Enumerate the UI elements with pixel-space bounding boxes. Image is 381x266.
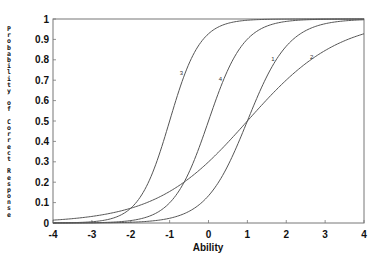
- x-tick-label: -2: [126, 229, 135, 240]
- x-tick-label: 2: [283, 229, 289, 240]
- y-tick-label: 0.8: [35, 54, 49, 65]
- curve-label-2: 2: [310, 54, 314, 60]
- x-tick-label: 3: [322, 229, 328, 240]
- x-tick-label: 4: [361, 229, 367, 240]
- y-tick-label: 0: [43, 218, 49, 229]
- curve-4: [53, 19, 364, 223]
- x-tick-label: -1: [165, 229, 174, 240]
- curve-label-3: 3: [180, 70, 184, 76]
- y-tick-label: 0.5: [35, 116, 49, 127]
- curves: 1234: [53, 19, 364, 223]
- curve-label-1: 1: [271, 56, 275, 62]
- x-tick-label: 0: [206, 229, 212, 240]
- y-tick-label: 0.1: [35, 197, 49, 208]
- x-tick-label: -4: [49, 229, 58, 240]
- y-tick-label: 0.2: [35, 177, 49, 188]
- x-tick-label: -3: [87, 229, 96, 240]
- icc-chart: 00.10.20.30.40.50.60.70.80.91 -4-3-2-101…: [0, 0, 381, 266]
- curve-label-4: 4: [219, 76, 223, 82]
- y-tick-label: 0.7: [35, 75, 49, 86]
- x-axis-label: Ability: [193, 242, 224, 253]
- y-tick-label: 0.4: [35, 136, 49, 147]
- y-tick-label: 1: [43, 14, 49, 25]
- curve-2: [53, 34, 364, 220]
- x-tick-label: 1: [245, 229, 251, 240]
- y-tick-label: 0.3: [35, 156, 49, 167]
- y-tick-label: 0.9: [35, 34, 49, 45]
- y-tick-label: 0.6: [35, 95, 49, 106]
